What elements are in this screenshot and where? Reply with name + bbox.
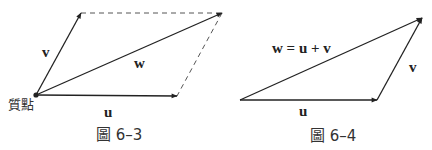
dashed-right-edge <box>177 13 222 96</box>
label-v: v <box>42 44 50 60</box>
figure-6-3: v w u 質點 圖 6–3 <box>8 13 222 144</box>
mass-point-dot <box>33 92 38 97</box>
caption-6-3: 圖 6–3 <box>96 126 142 144</box>
vector-w-arrow <box>240 18 422 100</box>
label-u: u <box>299 103 307 119</box>
figure-6-4: w = u + v v u 圖 6–4 <box>240 18 422 145</box>
label-mass-point: 質點 <box>8 97 34 112</box>
caption-6-4: 圖 6–4 <box>310 127 356 145</box>
vector-u-arrow <box>36 95 177 96</box>
label-v: v <box>409 59 417 75</box>
label-w: w <box>134 55 145 71</box>
vector-w-arrow <box>36 13 222 95</box>
vector-diagrams: v w u 質點 圖 6–3 w = u + v v u 圖 6–4 <box>0 0 432 150</box>
label-u: u <box>104 104 112 120</box>
label-w-equals-u-plus-v: w = u + v <box>272 40 331 56</box>
